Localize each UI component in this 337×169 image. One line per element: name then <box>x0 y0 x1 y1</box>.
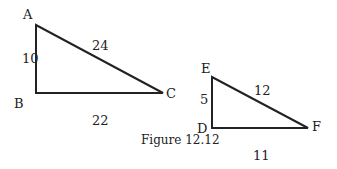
vertex-label-b: B <box>14 97 24 110</box>
side-label-ed: 5 <box>200 93 208 106</box>
vertex-label-c: C <box>166 87 176 100</box>
side-label-ac: 24 <box>92 39 109 52</box>
side-label-ef: 12 <box>254 84 271 97</box>
side-label-bc: 22 <box>92 114 109 127</box>
vertex-label-e: E <box>201 62 211 75</box>
side-label-ab: 10 <box>22 52 39 65</box>
figure-caption: Figure 12.12 <box>141 134 220 146</box>
side-label-df: 11 <box>253 149 270 162</box>
vertex-label-f: F <box>312 120 321 133</box>
vertex-label-a: A <box>23 8 32 21</box>
triangle-abc <box>36 25 163 93</box>
